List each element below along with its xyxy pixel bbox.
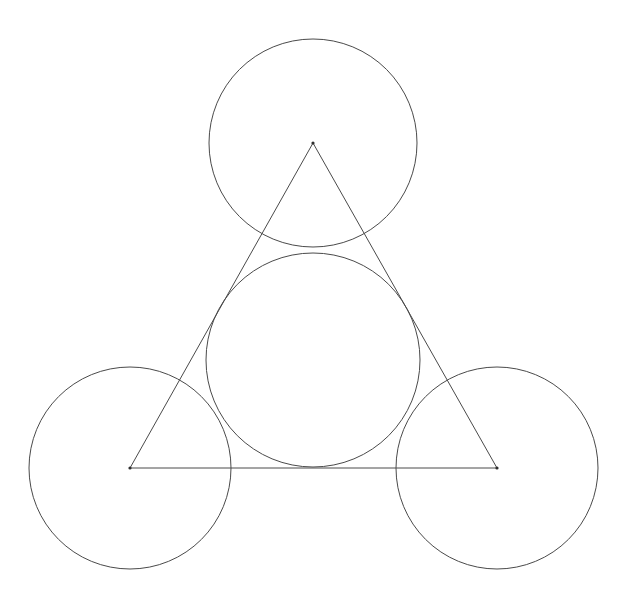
vertex-marker-bottom-right bbox=[495, 466, 498, 469]
figure-canvas bbox=[0, 0, 642, 611]
canvas-background bbox=[0, 0, 642, 611]
geometry-diagram bbox=[0, 0, 642, 611]
vertex-marker-bottom-left bbox=[128, 466, 131, 469]
vertex-marker-apex bbox=[311, 141, 314, 144]
